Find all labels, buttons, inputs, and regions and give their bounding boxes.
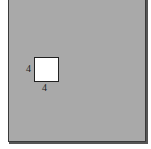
square-side-label-bottom: 4 (42, 83, 47, 93)
caption-fragment: – (72, 145, 76, 149)
square-side-label-left: 4 (26, 64, 31, 74)
unshaded-square (34, 57, 59, 82)
